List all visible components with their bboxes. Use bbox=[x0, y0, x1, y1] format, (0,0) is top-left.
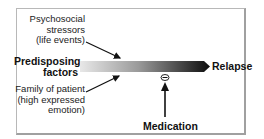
family-arrow bbox=[86, 76, 119, 92]
medication-arrowhead-icon bbox=[161, 82, 169, 91]
diagram-graphics bbox=[0, 0, 264, 139]
stressors-arrow bbox=[86, 42, 120, 58]
progression-bar bbox=[80, 61, 210, 72]
